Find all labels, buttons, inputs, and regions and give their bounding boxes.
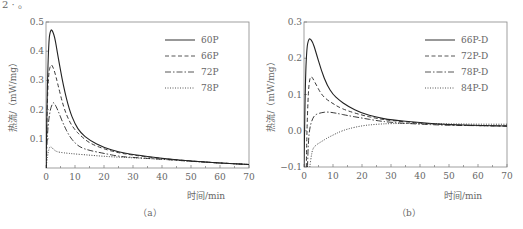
series-84P-D [310, 124, 507, 168]
x-tick-label: 70 [501, 171, 513, 181]
y-tick-label: 0.0 [288, 126, 303, 136]
legend-label: 78P [201, 83, 219, 93]
y-axis-label: 热流/（mW/mg） [7, 58, 18, 132]
figure: 2 · 。 0102030405060700.10.20.30.40.5热流/（… [0, 0, 523, 229]
x-tick-label: 0 [43, 172, 49, 182]
x-tick-label: 40 [414, 171, 426, 181]
x-tick-label: 50 [185, 172, 197, 182]
y-tick-label: 0.2 [30, 105, 44, 115]
series-60P [46, 30, 249, 168]
x-tick-label: 60 [214, 172, 226, 182]
x-tick-label: 20 [98, 172, 110, 182]
x-tick-label: 20 [356, 171, 368, 181]
top-text-fragment: 2 · 。 [2, 0, 28, 11]
y-tick-label: −0.1 [280, 162, 302, 172]
series-78P [46, 147, 249, 168]
series-78P-D [307, 112, 507, 167]
y-tick-label: 0.4 [30, 46, 45, 56]
chart-b: 010203040506070−0.10.00.10.20.3热流/（mW/mg… [265, 17, 513, 218]
chart-a: 0102030405060700.10.20.30.40.5热流/（mW/mg）… [7, 17, 255, 218]
series-66P [46, 65, 249, 168]
legend-label: 66P-D [461, 35, 488, 45]
x-tick-label: 0 [301, 171, 307, 181]
y-tick-label: 0.3 [288, 17, 303, 27]
figure-caption: （b） [397, 208, 421, 218]
y-tick-label: 0.1 [288, 90, 302, 100]
legend-label: 84P-D [461, 83, 488, 93]
x-tick-label: 60 [472, 171, 484, 181]
y-axis-label: 热流/（mW/mg） [265, 57, 276, 131]
y-tick-label: 0.1 [30, 134, 44, 144]
x-tick-label: 40 [156, 172, 168, 182]
x-tick-label: 30 [385, 171, 397, 181]
x-axis-label: 时间/min [187, 190, 225, 201]
figure-canvas: 0102030405060700.10.20.30.40.5热流/（mW/mg）… [0, 0, 523, 229]
x-tick-label: 30 [127, 172, 139, 182]
figure-caption: （a） [138, 208, 161, 218]
x-tick-label: 70 [243, 172, 255, 182]
legend-label: 72P-D [461, 51, 488, 61]
y-tick-label: 0.3 [30, 75, 45, 85]
x-axis-label: 时间/min [444, 190, 482, 201]
x-tick-label: 10 [327, 171, 339, 181]
y-tick-label: 0.5 [30, 17, 45, 27]
x-tick-label: 10 [69, 172, 81, 182]
legend-label: 66P [201, 51, 219, 61]
legend-label: 60P [201, 35, 219, 45]
plot-frame [46, 22, 249, 168]
legend-label: 78P-D [461, 67, 488, 77]
y-tick-label: 0.2 [288, 53, 302, 63]
legend-label: 72P [201, 67, 219, 77]
x-tick-label: 50 [443, 171, 455, 181]
series-72P [46, 103, 249, 168]
